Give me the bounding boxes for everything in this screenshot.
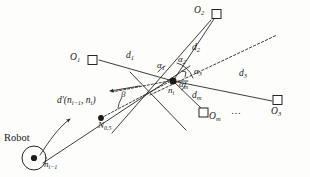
node-dot-ni — [169, 77, 176, 84]
angle-label-a2: α2 — [178, 55, 186, 65]
distance-label-d2: d2 — [192, 43, 200, 53]
distance-label-d3: d3 — [239, 69, 247, 79]
landmark-square-o1 — [88, 56, 97, 65]
landmark-square-o3 — [273, 96, 282, 105]
landmark-square-om — [199, 108, 208, 117]
geometry-diagram-svg — [0, 0, 310, 177]
landmark-label-o1: O1 — [70, 53, 80, 63]
distance-label-dm: dm — [192, 91, 201, 101]
distance-label-d1: d1 — [126, 51, 134, 61]
robot-label: Robot — [4, 133, 30, 144]
angle-label-a1: α1 — [157, 61, 165, 71]
angle-label-a3: α3 — [194, 67, 202, 77]
landmark-label-o2: O2 — [194, 6, 204, 16]
landmark-square-o2 — [212, 10, 221, 19]
node-label-nprev: ni−1 — [44, 160, 57, 170]
landmark-label-om: Om — [209, 112, 221, 122]
heading-arrow — [40, 119, 70, 155]
angle-arc-beta — [118, 99, 121, 108]
angle-label-beta: β — [121, 90, 125, 99]
angle-label-am: αm — [179, 80, 188, 90]
displacement-label: d'(ni−1, ni) — [57, 96, 96, 106]
node-label-nhalf: N0.5 — [98, 121, 112, 131]
landmark-label-o3: O3 — [271, 107, 281, 117]
right-angle-tick — [182, 71, 186, 77]
node-label-ni: ni — [168, 86, 174, 96]
node-dot-nprev — [31, 155, 37, 161]
path-line-prev-to-curr — [43, 66, 190, 163]
figure-canvas: O1 O2 Om O3 d1 d2 d3 dm α1 α2 α3 αm β ni… — [0, 0, 310, 177]
ellipsis-label: … — [231, 106, 243, 116]
bearing-ray-from-nhalf — [101, 82, 169, 118]
